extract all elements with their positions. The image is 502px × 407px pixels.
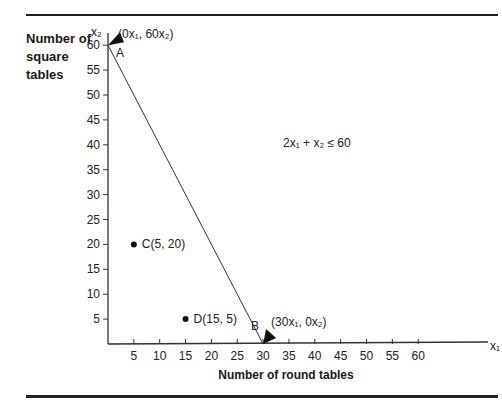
y-tick-label: 60 — [87, 38, 101, 52]
point-a-label: A — [116, 46, 124, 60]
point-c-dot — [131, 241, 137, 247]
x-tick-label: 40 — [308, 349, 322, 363]
x-tick-label: 10 — [153, 349, 167, 363]
point-d-label: D(15, 5) — [194, 312, 237, 326]
y-tick-label: 10 — [87, 287, 101, 301]
x-tick-label: 55 — [386, 349, 400, 363]
x-axis — [108, 342, 488, 344]
y-tick-label: 15 — [87, 262, 101, 276]
y-tick-label: 20 — [87, 237, 101, 251]
x-axis-label: Number of round tables — [0, 368, 502, 382]
x-tick-label: 25 — [231, 349, 245, 363]
y-tick-label: 40 — [87, 138, 101, 152]
y-tick-label: 50 — [87, 88, 101, 102]
x-tick-label: 15 — [179, 349, 193, 363]
y-tick-label: 25 — [87, 213, 101, 227]
x-tick-label: 35 — [282, 349, 296, 363]
x-tick-label: 45 — [334, 349, 348, 363]
x-tick-label: 20 — [205, 349, 219, 363]
x-tick-label: 60 — [412, 349, 426, 363]
plot-area: 5101520253035404550556051015202530354045… — [0, 0, 502, 407]
x-tick-label: 30 — [256, 349, 270, 363]
x-axis-symbol: x₁ — [490, 339, 500, 353]
y-tick-label: 35 — [87, 163, 101, 177]
point-b-label: B — [251, 319, 259, 333]
point-a-coordinates: (0x₁, 60x₂) — [118, 27, 173, 41]
y-tick-label: 30 — [87, 188, 101, 202]
point-d-dot — [183, 316, 189, 322]
constraint-annotation: 2x₁ + x₂ ≤ 60 — [283, 136, 351, 150]
point-c-label: C(5, 20) — [142, 237, 185, 251]
point-b-coordinates: (30x₁, 0x₂) — [271, 315, 326, 329]
y-tick-label: 5 — [93, 312, 100, 326]
y-tick-label: 55 — [87, 63, 101, 77]
y-axis-symbol: x₂ — [91, 25, 102, 39]
point-b-arrow-icon — [263, 329, 276, 344]
y-tick-label: 45 — [87, 113, 101, 127]
constraint-line — [108, 45, 263, 344]
x-tick-label: 5 — [131, 349, 138, 363]
x-tick-label: 50 — [360, 349, 374, 363]
